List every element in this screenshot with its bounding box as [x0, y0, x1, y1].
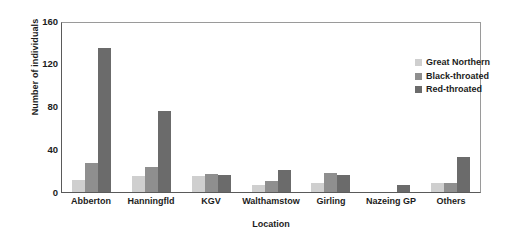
x-tick-label: KGV [181, 196, 241, 206]
y-axis-tick-labels: 160 120 80 40 0 [28, 0, 58, 240]
bar [252, 185, 265, 192]
bar [444, 183, 457, 193]
legend-swatch-icon-red-throated [415, 86, 422, 93]
y-tick-120: 120 [32, 59, 58, 69]
bar [397, 185, 410, 192]
legend-item-red-throated: Red-throated [415, 85, 490, 94]
bar-chart-figure: Number of individuals 160 120 80 40 0 Gr… [0, 0, 509, 240]
bar [158, 111, 171, 192]
x-tick-label: Walthamstow [241, 196, 301, 206]
bar [265, 181, 278, 192]
x-axis-title: Location [61, 219, 481, 229]
bar [311, 183, 324, 193]
legend-item-great-northern: Great Northern [415, 58, 490, 67]
legend-item-black-throated: Black-throated [415, 72, 490, 81]
bar [278, 170, 291, 192]
bar [337, 175, 350, 192]
y-tick-0: 0 [32, 188, 58, 198]
bar [218, 175, 231, 192]
bar [98, 48, 111, 192]
chart-legend: Great Northern Black-throated Red-throat… [415, 58, 490, 94]
bar-group [301, 23, 361, 192]
bar-group [361, 23, 421, 192]
x-axis-tick-labels: AbbertonHanningfldKGVWalthamstowGirlingN… [61, 196, 481, 206]
legend-swatch-icon-great-northern [415, 59, 422, 66]
bar-groups [62, 23, 480, 192]
legend-label-great-northern: Great Northern [426, 58, 490, 67]
bar-group [62, 23, 122, 192]
x-tick-label: Abberton [61, 196, 121, 206]
x-tick-label: Girling [301, 196, 361, 206]
bar-group [241, 23, 301, 192]
x-tick-label: Others [421, 196, 481, 206]
y-tick-80: 80 [32, 102, 58, 112]
bar [457, 157, 470, 192]
x-tick-label: Hanningfld [121, 196, 181, 206]
bar [324, 173, 337, 192]
bar [205, 174, 218, 192]
legend-label-red-throated: Red-throated [426, 85, 482, 94]
bar [145, 167, 158, 192]
bar [132, 176, 145, 192]
y-tick-160: 160 [32, 17, 58, 27]
plot-area: Great Northern Black-throated Red-throat… [61, 22, 481, 193]
bar-group [420, 23, 480, 192]
y-tick-40: 40 [32, 145, 58, 155]
x-tick-label: Nazeing GP [361, 196, 421, 206]
bar [192, 176, 205, 192]
legend-label-black-throated: Black-throated [426, 72, 489, 81]
bar [431, 183, 444, 193]
bar-group [181, 23, 241, 192]
legend-swatch-icon-black-throated [415, 73, 422, 80]
bar [85, 163, 98, 192]
bar [72, 180, 85, 192]
bar-group [122, 23, 182, 192]
